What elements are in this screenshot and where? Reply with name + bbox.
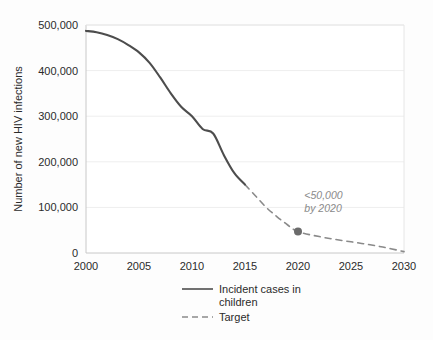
x-axis-tick-label: 2005 — [127, 260, 151, 272]
x-axis-tick-label: 2010 — [180, 260, 204, 272]
y-axis-tick-label: 400,000 — [38, 65, 78, 77]
legend-label-incident-cases-line2: children — [219, 296, 258, 308]
legend-label-incident-cases-line1: Incident cases in — [219, 283, 301, 295]
x-axis-tick-label: 2030 — [392, 260, 416, 272]
y-axis-title: Number of new HIV infections — [12, 66, 24, 212]
annotation-line-1: <50,000 — [304, 189, 342, 201]
x-axis-tick-label: 2025 — [339, 260, 363, 272]
y-axis-tick-label: 200,000 — [38, 156, 78, 168]
y-axis-tick-label: 100,000 — [38, 201, 78, 213]
y-axis-tick-label: 300,000 — [38, 110, 78, 122]
chart-annotation: <50,000 by 2020 — [304, 189, 342, 214]
y-axis-tick-label: 0 — [72, 247, 78, 259]
plot-area-background — [86, 25, 404, 253]
hiv-infections-line-chart: 0100,000200,000300,000400,000500,000 200… — [0, 0, 433, 340]
y-axis-tick-label: 500,000 — [38, 19, 78, 31]
annotation-line-2: by 2020 — [304, 202, 342, 214]
chart-canvas: 0100,000200,000300,000400,000500,000 200… — [0, 0, 433, 340]
data-point-markers — [294, 228, 302, 236]
x-axis-tick-label: 2020 — [286, 260, 310, 272]
target-2020-point — [294, 228, 302, 236]
legend-label-target: Target — [219, 311, 250, 323]
x-axis-tick-label: 2000 — [74, 260, 98, 272]
x-axis-tick-label: 2015 — [233, 260, 257, 272]
